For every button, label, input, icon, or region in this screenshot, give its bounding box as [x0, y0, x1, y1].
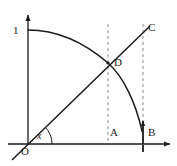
geometry-figure: 1 C D A B O x [0, 0, 177, 166]
point-label-d: D [114, 57, 122, 68]
cosine-curve [28, 30, 142, 131]
y-axis-unit-label: 1 [13, 25, 19, 36]
angle-label-x: x [37, 131, 41, 141]
point-label-c: C [148, 22, 155, 33]
origin-label: O [21, 146, 29, 157]
intersection-point-d [106, 61, 109, 64]
point-label-a: A [110, 127, 118, 138]
point-label-b: B [148, 127, 155, 138]
angle-arc [45, 127, 52, 144]
